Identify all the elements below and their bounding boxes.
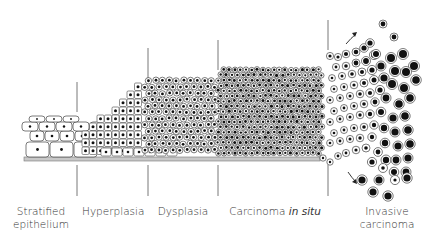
cis-cell-nucleus [303, 136, 306, 139]
invasive-cell-nucleus [373, 100, 378, 105]
hyperplasia-cell-nucleus [114, 141, 117, 144]
cis-cell-nucleus [320, 105, 323, 108]
cis-cell-nucleus [242, 136, 245, 139]
dysplasia-cell-nucleus [203, 92, 206, 95]
cis-cell-nucleus [230, 125, 232, 127]
cis-cell-nucleus [298, 74, 300, 76]
label-line: epithelium [8, 218, 74, 231]
cis-cell-nucleus [248, 126, 251, 129]
cis-cell-nucleus [309, 115, 312, 118]
cis-cell-nucleus [301, 89, 303, 91]
invasive-cell-nucleus [339, 97, 342, 100]
dysplasia-cell-nucleus [143, 111, 146, 114]
cis-cell-nucleus [269, 84, 272, 87]
cis-cell-nucleus [255, 130, 258, 133]
cis-cell-nucleus [306, 131, 309, 134]
cis-cell-nucleus [273, 131, 276, 134]
cis-cell-nucleus [217, 110, 219, 112]
dysplasia-cell-nucleus [168, 105, 171, 108]
cis-cell-nucleus [281, 126, 284, 129]
dysplasia-cell-nucleus [186, 98, 189, 101]
dysplasia-cell-nucleus [150, 86, 153, 89]
hyperplasia-cell-nucleus [114, 109, 117, 112]
cis-cell-nucleus [315, 116, 318, 119]
cis-cell-nucleus [301, 99, 304, 102]
dysplasia-cell-nucleus [199, 86, 202, 89]
hyperplasia-cell-nucleus [92, 125, 95, 128]
cis-cell-nucleus [276, 105, 278, 107]
dysplasia-cell-nucleus [210, 142, 213, 145]
cis-cell-nucleus [279, 110, 281, 112]
dysplasia-cell-nucleus [185, 111, 188, 114]
cis-cell-nucleus [223, 152, 226, 155]
dysplasia-cell-nucleus [185, 85, 188, 88]
cis-cell-nucleus [247, 136, 250, 139]
cis-cell-nucleus [317, 89, 320, 92]
cis-cell-nucleus [292, 146, 294, 148]
invasive-cell-nucleus [341, 75, 344, 78]
cis-cell-nucleus [309, 146, 312, 149]
dysplasia-cell-nucleus [189, 104, 192, 107]
hyperplasia-cell-nucleus [122, 117, 125, 120]
cis-cell-nucleus [231, 115, 234, 118]
hyperplasia-cell-nucleus [99, 125, 102, 128]
cis-cell-nucleus [244, 79, 246, 81]
dysplasia-cell-nucleus [190, 117, 193, 120]
cis-cell-nucleus [278, 131, 281, 134]
invasive-cell-nucleus [349, 116, 352, 119]
cis-cell-nucleus [261, 110, 264, 113]
cis-cell-nucleus [270, 136, 273, 139]
cis-cell-nucleus [312, 79, 314, 81]
cis-cell-nucleus [272, 151, 275, 154]
dysplasia-cell-nucleus [158, 85, 161, 88]
cis-cell-nucleus [251, 131, 254, 134]
cis-cell-nucleus [320, 95, 323, 98]
invasive-cell-nucleus [350, 72, 354, 76]
cis-cell-nucleus [231, 95, 233, 97]
invasive-cell-nucleus [363, 58, 369, 64]
cis-cell-nucleus [284, 141, 287, 144]
cis-cell-nucleus [301, 79, 303, 81]
cis-cell-nucleus [227, 131, 230, 134]
invasive-cell-nucleus [402, 68, 410, 76]
cis-cell-nucleus [247, 84, 249, 86]
cis-cell-nucleus [264, 73, 266, 75]
invasive-cell-nucleus [391, 67, 399, 75]
stratified-surface-cell-nucleus [36, 118, 38, 120]
dysplasia-cell-nucleus [165, 136, 168, 139]
hyperplasia-cell-nucleus [107, 141, 110, 144]
cis-cell-nucleus [306, 68, 309, 71]
cis-cell-nucleus [317, 120, 320, 123]
cis-cell-nucleus [219, 95, 222, 98]
dysplasia-cell-nucleus [203, 143, 206, 146]
cis-cell-nucleus [306, 142, 309, 145]
invasive-cell-nucleus [336, 55, 339, 58]
stratified-cell-nucleus [66, 135, 69, 138]
dysplasia-cell-nucleus [161, 92, 164, 95]
dysplasia-cell-nucleus [189, 79, 192, 82]
cis-cell-nucleus [296, 99, 298, 101]
cis-cell-nucleus [256, 120, 259, 123]
cis-cell-nucleus [283, 99, 286, 102]
invasive-cell-nucleus [322, 157, 324, 159]
cis-cell-nucleus [230, 105, 233, 108]
cis-cell-nucleus [225, 116, 227, 118]
cis-cell-nucleus [292, 136, 294, 138]
hyperplasia-cell-nucleus [129, 117, 132, 120]
cis-cell-nucleus [258, 146, 261, 149]
cis-cell-nucleus [262, 68, 265, 71]
dysplasia-cell-nucleus [207, 149, 210, 152]
cis-cell-nucleus [244, 120, 247, 123]
invasive-cell-nucleus [384, 192, 391, 199]
cis-cell-nucleus [267, 152, 270, 155]
cis-cell-nucleus [281, 94, 283, 96]
dysplasia-cell-nucleus [179, 99, 182, 102]
cis-cell-nucleus [222, 79, 225, 82]
dysplasia-cell-nucleus [197, 92, 200, 95]
invasive-cell-nucleus [383, 95, 390, 102]
invasive-cell-nucleus [354, 61, 359, 66]
stratified-cell-nucleus [51, 135, 54, 138]
dysplasia-cell-nucleus [154, 92, 157, 95]
cis-cell-nucleus [281, 147, 283, 149]
cis-cell-nucleus [287, 105, 290, 108]
